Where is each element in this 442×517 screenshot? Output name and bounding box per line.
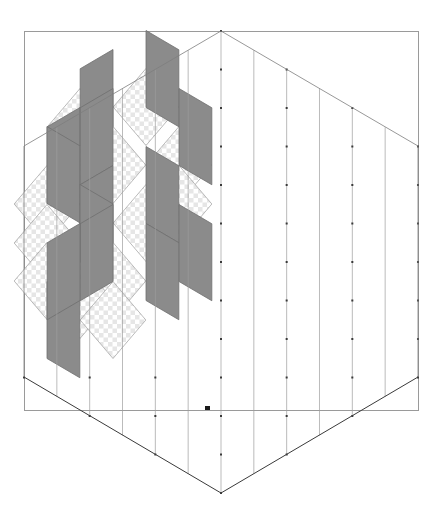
lattice-node [351, 377, 353, 379]
lattice-node [286, 146, 288, 148]
lattice-node [220, 300, 222, 302]
lattice-node [220, 146, 222, 148]
lattice-node [351, 146, 353, 148]
lattice-node [154, 377, 156, 379]
lattice-node [286, 184, 288, 186]
lattice-node [286, 223, 288, 225]
figure-canvas [0, 0, 442, 517]
lattice-node [286, 415, 288, 417]
lattice-node [220, 107, 222, 109]
lattice-node [286, 107, 288, 109]
lattice-node [220, 454, 222, 456]
lattice-node [220, 415, 222, 417]
lattice-node [154, 415, 156, 417]
lattice-node [89, 377, 91, 379]
lattice-node [220, 184, 222, 186]
lattice-node [351, 261, 353, 263]
lattice-node [286, 377, 288, 379]
lattice-node [286, 338, 288, 340]
lattice-node [220, 261, 222, 263]
lattice-node [220, 69, 222, 71]
lattice-node [351, 184, 353, 186]
lattice-node [351, 338, 353, 340]
lattice-node [286, 300, 288, 302]
lattice-node [220, 223, 222, 225]
lattice-node [351, 223, 353, 225]
lattice-node [220, 377, 222, 379]
lattice-node [351, 300, 353, 302]
tessellation-svg [0, 0, 442, 517]
cursor-marker-layer[interactable] [205, 406, 210, 410]
lattice-node [220, 338, 222, 340]
lattice-node [286, 261, 288, 263]
cursor-marker[interactable] [205, 406, 210, 410]
